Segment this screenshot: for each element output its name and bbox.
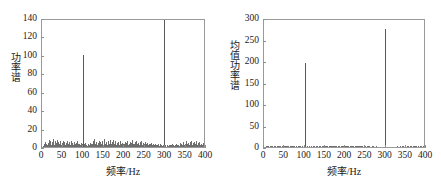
y-tick-mark <box>41 93 44 94</box>
x-tick-mark <box>123 145 124 148</box>
plot-area-right <box>263 19 425 148</box>
y-tick-label: 20 <box>1 125 37 135</box>
x-tick-mark <box>344 145 345 148</box>
x-axis-title-right: 频率/Hz <box>263 166 425 177</box>
x-tick-label: 50 <box>57 151 67 161</box>
y-tick-mark <box>41 56 44 57</box>
y-tick-mark <box>41 111 44 112</box>
y-tick-label: 120 <box>1 33 37 43</box>
x-tick-label: 300 <box>377 151 391 161</box>
chart-panel-left: 020406080100120140 050100150200250300350… <box>0 0 220 187</box>
y-tick-label: 40 <box>1 106 37 116</box>
x-tick-mark <box>364 145 365 148</box>
x-tick-label: 200 <box>337 151 351 161</box>
x-tick-label: 250 <box>136 151 150 161</box>
spectrum-bar <box>164 20 165 147</box>
y-tick-label: 0 <box>223 143 259 153</box>
x-tick-mark <box>103 145 104 148</box>
y-tick-label: 50 <box>223 122 259 132</box>
x-tick-label: 400 <box>198 151 212 161</box>
x-tick-mark <box>304 145 305 148</box>
x-tick-label: 100 <box>296 151 310 161</box>
y-tick-mark <box>41 148 44 149</box>
y-axis-title-right: 均值功率谱 <box>228 40 239 90</box>
y-tick-mark <box>263 41 266 42</box>
x-tick-mark <box>425 145 426 148</box>
x-tick-mark <box>324 145 325 148</box>
x-tick-label: 50 <box>279 151 289 161</box>
x-tick-label: 0 <box>39 151 44 161</box>
x-tick-mark <box>62 145 63 148</box>
x-tick-label: 350 <box>398 151 412 161</box>
figure-container: 020406080100120140 050100150200250300350… <box>0 0 441 187</box>
x-tick-label: 300 <box>157 151 171 161</box>
spectrum-bar <box>305 63 306 147</box>
plot-area-left <box>41 19 205 148</box>
y-tick-mark <box>41 37 44 38</box>
x-tick-mark <box>144 145 145 148</box>
y-tick-label: 140 <box>1 14 37 24</box>
y-tick-label: 300 <box>223 14 259 24</box>
x-tick-mark <box>41 145 42 148</box>
x-tick-label: 0 <box>261 151 266 161</box>
x-tick-label: 200 <box>116 151 130 161</box>
y-tick-mark <box>263 84 266 85</box>
y-axis-title-left: 功率谱 <box>9 52 20 82</box>
x-tick-label: 350 <box>177 151 191 161</box>
y-tick-label: 60 <box>1 88 37 98</box>
x-tick-label: 100 <box>75 151 89 161</box>
y-tick-mark <box>41 74 44 75</box>
y-tick-mark <box>263 105 266 106</box>
y-tick-mark <box>263 148 266 149</box>
x-tick-label: 400 <box>418 151 432 161</box>
x-tick-mark <box>164 145 165 148</box>
x-tick-mark <box>283 145 284 148</box>
x-tick-label: 150 <box>317 151 331 161</box>
x-tick-mark <box>263 145 264 148</box>
y-tick-mark <box>263 127 266 128</box>
x-tick-label: 250 <box>357 151 371 161</box>
y-tick-mark <box>263 62 266 63</box>
y-tick-mark <box>41 130 44 131</box>
y-tick-label: 100 <box>223 100 259 110</box>
x-tick-mark <box>185 145 186 148</box>
x-axis-title-left: 频率/Hz <box>41 166 205 177</box>
y-tick-label: 0 <box>1 143 37 153</box>
x-tick-mark <box>82 145 83 148</box>
y-tick-mark <box>263 19 266 20</box>
spectrum-series-right <box>264 20 424 147</box>
spectrum-series-left <box>42 20 204 147</box>
x-tick-mark <box>385 145 386 148</box>
x-tick-label: 150 <box>95 151 109 161</box>
spectrum-bar <box>83 55 84 147</box>
spectrum-bar <box>385 29 386 147</box>
x-tick-mark <box>405 145 406 148</box>
chart-panel-right: 050100150200250300 050100150200250300350… <box>220 0 441 187</box>
y-tick-mark <box>41 19 44 20</box>
x-tick-mark <box>205 145 206 148</box>
